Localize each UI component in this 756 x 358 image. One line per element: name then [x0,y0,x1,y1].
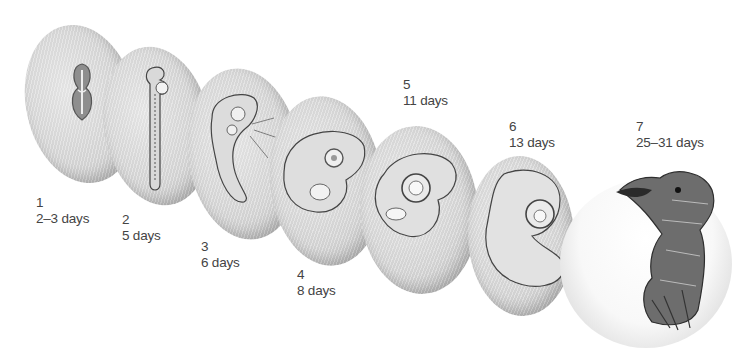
stage-7-label: 7 25–31 days [636,119,704,151]
stage-3-number: 3 [201,239,240,255]
stage-4-age: 8 days [297,283,336,299]
stage-4-label: 4 8 days [297,267,336,299]
embryo-4-icon [276,124,372,224]
stage-3-age: 6 days [201,255,240,271]
stage-7-number: 7 [636,119,704,135]
embryo-1-icon [62,62,102,122]
embryo-5-icon [368,144,468,254]
stage-2-number: 2 [122,212,161,228]
stage-5-label: 5 11 days [403,77,448,109]
stage-6-age: 13 days [509,135,555,151]
stage-2-label: 2 5 days [122,212,161,244]
embryo-2-icon [138,64,178,194]
stage-5-number: 5 [403,77,448,93]
stage-4-number: 4 [297,267,336,283]
hatchling-icon [612,160,732,340]
stage-5-age: 11 days [403,93,448,109]
stage-2-age: 5 days [122,228,161,244]
stage-6-number: 6 [509,119,555,135]
embryo-6-icon [474,164,574,304]
stage-1-label: 1 2–3 days [36,195,89,227]
stage-7-age: 25–31 days [636,135,704,151]
stage-3-label: 3 6 days [201,239,240,271]
stage-1-number: 1 [36,195,89,211]
stage-1-age: 2–3 days [36,211,89,227]
stage-6-label: 6 13 days [509,119,555,151]
